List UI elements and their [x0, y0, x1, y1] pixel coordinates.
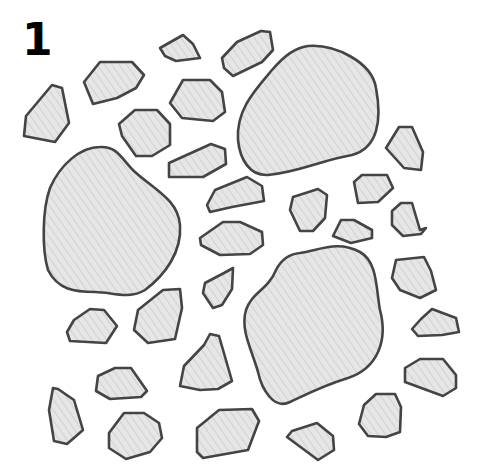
poly-27 — [287, 423, 334, 460]
poly-19 — [180, 334, 232, 390]
poly-2 — [84, 62, 144, 104]
poly-6 — [170, 80, 225, 121]
poly-3 — [160, 35, 200, 61]
poly-8 — [207, 177, 264, 212]
poly-10 — [290, 189, 327, 231]
poly-22 — [96, 368, 147, 399]
poly-11 — [354, 175, 393, 203]
poly-9 — [200, 222, 263, 255]
large-blob-left — [44, 147, 180, 295]
poly-18 — [67, 309, 117, 343]
poly-17 — [134, 289, 182, 343]
poly-16 — [203, 268, 233, 308]
large-blob-bottom-right — [244, 246, 382, 404]
poly-5 — [119, 110, 170, 156]
poly-4 — [222, 31, 273, 76]
poly-15 — [392, 257, 436, 298]
figure-label: 1 — [22, 18, 53, 62]
figure-canvas — [0, 0, 482, 472]
poly-20 — [412, 309, 459, 336]
poly-26 — [359, 394, 401, 437]
poly-23 — [49, 388, 83, 444]
poly-25 — [197, 409, 259, 458]
poly-1 — [24, 85, 69, 142]
poly-14 — [392, 203, 426, 236]
poly-24 — [109, 413, 162, 459]
poly-13 — [386, 127, 423, 170]
large-blob-top-right — [238, 46, 379, 175]
poly-7 — [169, 144, 226, 177]
poly-21 — [405, 359, 456, 396]
poly-12 — [333, 220, 372, 243]
